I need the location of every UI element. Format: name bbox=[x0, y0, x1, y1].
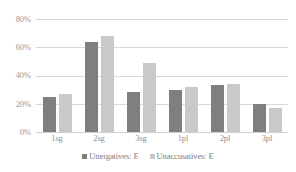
bar-unergatives-2sg bbox=[85, 42, 98, 132]
x-axis-tick-1sg: 1sg bbox=[36, 134, 78, 143]
y-axis-tick-labels: 80% 60% 40% 20% 0% bbox=[0, 0, 34, 152]
bar-unaccusatives-3pl bbox=[269, 108, 282, 132]
chart-legend: Unergatives: E Unaccusatives: E bbox=[0, 152, 296, 161]
legend-item-unergatives: Unergatives: E bbox=[82, 152, 138, 161]
legend-label-unaccusatives: Unaccusatives: E bbox=[157, 152, 214, 161]
bar-group-2pl bbox=[204, 19, 246, 132]
legend-swatch-icon-unergatives bbox=[82, 154, 87, 159]
bar-group-3sg bbox=[120, 19, 162, 132]
x-axis-tick-2pl: 2pl bbox=[204, 134, 246, 143]
bar-group-3pl bbox=[246, 19, 288, 132]
bar-unaccusatives-2sg bbox=[101, 36, 114, 132]
x-axis-tick-1pl: 1pl bbox=[162, 134, 204, 143]
x-axis-tick-2sg: 2sg bbox=[78, 134, 120, 143]
y-axis-tick-80: 80% bbox=[0, 15, 31, 24]
bar-unaccusatives-3sg bbox=[143, 63, 156, 132]
bar-unergatives-1pl bbox=[169, 90, 182, 132]
bar-group-1pl bbox=[162, 19, 204, 132]
bar-chart: 80% 60% 40% 20% 0% bbox=[0, 0, 296, 172]
bar-unergatives-1sg bbox=[43, 97, 56, 132]
y-axis-tick-60: 60% bbox=[0, 43, 31, 52]
bar-unergatives-3sg bbox=[127, 92, 140, 132]
x-axis-tick-3sg: 3sg bbox=[120, 134, 162, 143]
legend-swatch-icon-unaccusatives bbox=[150, 154, 155, 159]
legend-item-unaccusatives: Unaccusatives: E bbox=[150, 152, 214, 161]
plot-area bbox=[36, 19, 288, 132]
bar-unaccusatives-1sg bbox=[59, 94, 72, 132]
x-axis-tick-labels: 1sg 2sg 3sg 1pl 2pl 3pl bbox=[36, 134, 288, 143]
bar-unaccusatives-1pl bbox=[185, 87, 198, 132]
y-axis-tick-20: 20% bbox=[0, 100, 31, 109]
y-axis-tick-0: 0% bbox=[0, 128, 31, 137]
gridline-0-baseline bbox=[36, 132, 288, 133]
bar-unergatives-3pl bbox=[253, 104, 266, 132]
bar-groups bbox=[36, 19, 288, 132]
x-axis-tick-3pl: 3pl bbox=[246, 134, 288, 143]
y-axis-tick-40: 40% bbox=[0, 71, 31, 80]
bar-unaccusatives-2pl bbox=[227, 84, 240, 132]
bar-group-1sg bbox=[36, 19, 78, 132]
bar-group-2sg bbox=[78, 19, 120, 132]
legend-label-unergatives: Unergatives: E bbox=[89, 152, 138, 161]
bar-unergatives-2pl bbox=[211, 85, 224, 132]
